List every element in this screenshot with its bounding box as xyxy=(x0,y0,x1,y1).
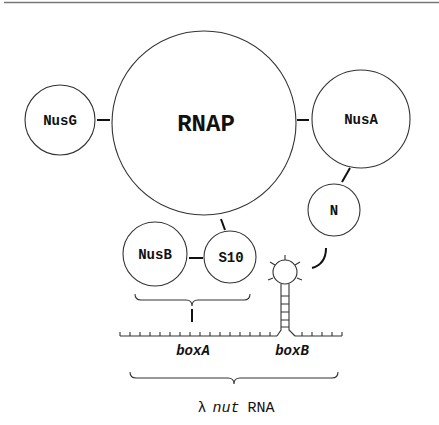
n-label: N xyxy=(330,203,338,219)
nusa-n-link xyxy=(342,168,350,182)
rnap-s10-link xyxy=(221,219,225,230)
nut-rna-brace xyxy=(130,372,338,384)
nusb-s10-brace xyxy=(135,294,250,306)
lambda-symbol: λ xyxy=(197,400,206,417)
nusg-label: NusG xyxy=(43,113,77,129)
boxb-label: boxB xyxy=(275,343,309,359)
s10-node: S10 xyxy=(204,231,256,283)
nut-rna-caption: λnutRNA xyxy=(197,400,274,417)
boxa-label: boxA xyxy=(176,343,210,359)
nusb-node: NusB xyxy=(123,222,187,286)
nut-complex-diagram: RNAP NusG NusA N NusB S10 boxA boxB λnu xyxy=(0,0,439,425)
n-node: N xyxy=(308,184,360,236)
n-boxb-link xyxy=(312,248,326,268)
nut-word: nut xyxy=(212,400,239,417)
rna-word: RNA xyxy=(248,400,275,417)
s10-label: S10 xyxy=(218,250,243,266)
nusa-label: NusA xyxy=(344,112,378,128)
rnap-label: RNAP xyxy=(177,111,235,138)
nusg-node: NusG xyxy=(25,85,95,155)
boxb-loop xyxy=(273,260,297,284)
nusa-node: NusA xyxy=(312,70,410,168)
rnap-node: RNAP xyxy=(112,31,296,215)
nusb-label: NusB xyxy=(138,247,172,263)
